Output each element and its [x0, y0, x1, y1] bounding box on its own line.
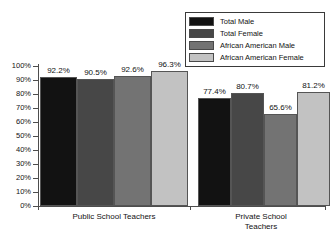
y-axis-tick-label: 10%: [0, 188, 31, 196]
legend-swatch-african-american-male: [189, 41, 214, 50]
y-axis-tick-label: 0%: [0, 202, 31, 210]
y-axis-tick-label: 90%: [0, 76, 31, 84]
legend-label-african-american-male: African American Male: [220, 41, 295, 50]
bar-chart: Total Male Total Female African American…: [0, 0, 334, 244]
bar: [297, 92, 330, 206]
legend-item-african-american-male: African American Male: [189, 40, 320, 51]
bar-value-label: 81.2%: [294, 82, 333, 90]
x-tick-start: [38, 206, 39, 210]
bar: [198, 98, 231, 206]
x-tick-middle: [190, 206, 191, 210]
bar-value-label: 65.6%: [261, 104, 300, 112]
bar: [231, 93, 264, 206]
y-axis-tick-label: 20%: [0, 174, 31, 182]
chart-legend: Total Male Total Female African American…: [185, 12, 325, 67]
bar: [264, 114, 297, 206]
legend-item-total-male: Total Male: [189, 16, 320, 27]
category-label-public-school-teachers: Public School Teachers: [38, 212, 190, 222]
bar: [151, 71, 188, 206]
bar: [77, 79, 114, 206]
y-axis-tick-label: 50%: [0, 132, 31, 140]
bar: [40, 77, 77, 206]
y-axis-tick-label: 30%: [0, 160, 31, 168]
y-axis-tick-label: 80%: [0, 90, 31, 98]
legend-swatch-african-american-female: [189, 53, 214, 62]
bar: [114, 76, 151, 206]
legend-label-total-female: Total Female: [220, 29, 263, 38]
legend-swatch-total-female: [189, 29, 214, 38]
y-axis-tick-label: 40%: [0, 146, 31, 154]
x-tick-end: [325, 206, 326, 210]
plot-area: [38, 66, 324, 206]
y-axis-tick-label: 60%: [0, 118, 31, 126]
legend-label-african-american-female: African American Female: [220, 53, 304, 62]
bar-value-label: 80.7%: [228, 83, 267, 91]
legend-swatch-total-male: [189, 17, 214, 26]
y-axis-tick-label: 70%: [0, 104, 31, 112]
legend-item-total-female: Total Female: [189, 28, 320, 39]
legend-item-african-american-female: African American Female: [189, 52, 320, 63]
x-axis-line: [38, 206, 326, 207]
y-axis-tick-label: 100%: [0, 62, 31, 70]
category-label-private-school-teachers: Private School Teachers: [198, 212, 324, 232]
legend-label-total-male: Total Male: [220, 17, 254, 26]
